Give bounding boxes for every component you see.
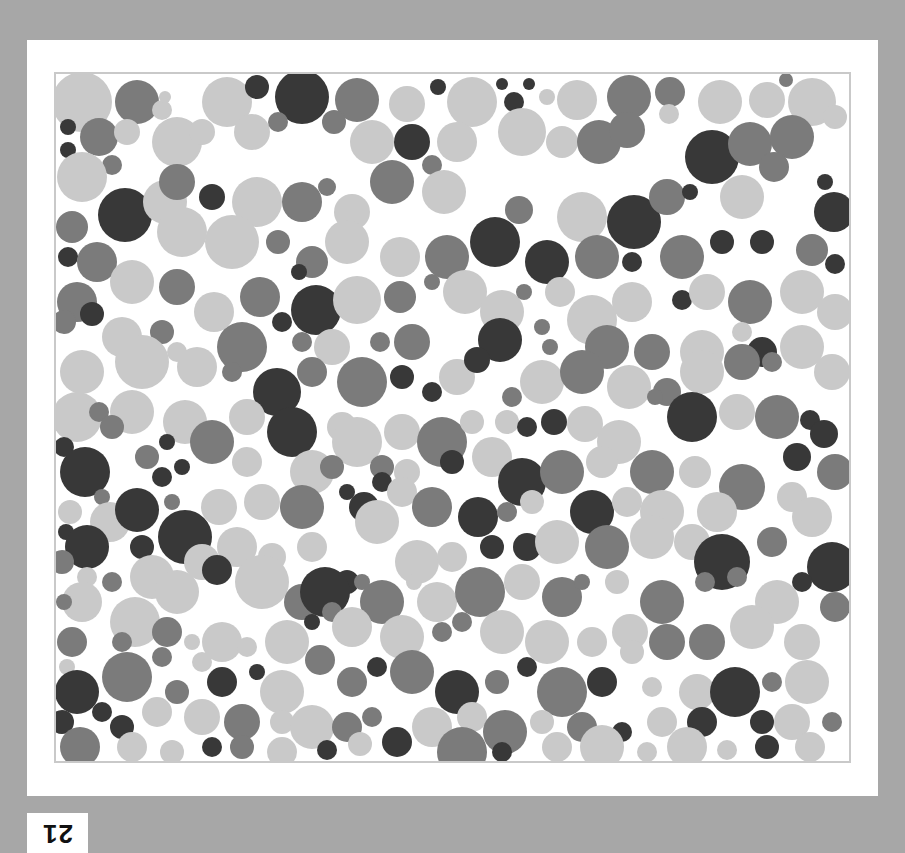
plate-dot-light	[749, 82, 785, 118]
plate-dot-dark	[58, 247, 78, 267]
plate-dot-light	[498, 108, 546, 156]
plate-dot-mid	[102, 652, 152, 702]
plate-dot-dark	[814, 192, 851, 232]
plate-dot-dark	[382, 727, 412, 757]
plate-dot-light	[525, 620, 569, 664]
plate-dot-mid	[796, 234, 828, 266]
plate-dot-dark	[291, 285, 341, 335]
plate-dot-mid	[152, 647, 172, 667]
plate-dot-dark	[807, 542, 851, 592]
plate-dot-dark	[80, 302, 104, 326]
plate-dot-mid	[534, 319, 550, 335]
plate-dot-light	[192, 652, 212, 672]
plate-dot-dark	[60, 119, 76, 135]
plate-dot-dark	[115, 488, 159, 532]
plate-dot-mid	[115, 80, 159, 124]
plate-dot-light	[680, 350, 724, 394]
plate-dot-light	[546, 126, 578, 158]
plate-dot-dark	[541, 409, 567, 435]
plate-dot-dark	[317, 740, 337, 760]
plate-dot-light	[698, 80, 742, 124]
plate-dot-dark	[810, 420, 838, 448]
plate-dot-light	[717, 740, 737, 760]
plate-dot-dark	[367, 657, 387, 677]
plate-dot-light	[637, 742, 657, 762]
plate-dot-light	[605, 570, 629, 594]
plate-dot-light	[557, 80, 597, 120]
plate-dot-light	[58, 500, 82, 524]
plate-dot-mid	[159, 269, 195, 305]
plate-dot-mid	[394, 324, 430, 360]
plate-dot-mid	[660, 235, 704, 279]
plate-dot-dark	[458, 497, 498, 537]
plate-dot-mid	[634, 334, 670, 370]
plate-dot-mid	[759, 152, 789, 182]
plate-number-text: 21	[42, 818, 73, 849]
plate-dot-dark	[817, 174, 833, 190]
plate-dot-light	[184, 634, 200, 650]
plate-dot-dark	[267, 407, 317, 457]
plate-dot-light	[792, 497, 832, 537]
plate-dot-light	[780, 270, 824, 314]
plate-dot-mid	[820, 592, 850, 622]
plate-dot-mid	[762, 672, 782, 692]
plate-dot-light	[814, 354, 850, 390]
plate-dot-dark	[517, 417, 537, 437]
plate-dot-light	[205, 215, 259, 269]
plate-dot-light	[142, 697, 172, 727]
plate-dot-light	[60, 350, 104, 394]
plate-dot-light	[642, 677, 662, 697]
plate-dot-mid	[540, 450, 584, 494]
plate-dot-light	[612, 282, 652, 322]
plate-dot-mid	[57, 627, 87, 657]
plate-dot-light	[823, 105, 847, 129]
plate-dot-light	[184, 699, 220, 735]
plate-dot-light	[520, 360, 564, 404]
plate-dot-light	[679, 674, 715, 710]
plate-dot-mid	[649, 179, 685, 215]
plate-dot-dark	[390, 365, 414, 389]
plate-dot-dark	[750, 710, 774, 734]
plate-dot-light	[557, 192, 607, 242]
plate-dot-light	[355, 500, 399, 544]
plate-dot-light	[333, 276, 381, 324]
plate-dot-light	[447, 77, 497, 127]
plate-dot-light	[348, 732, 372, 756]
plate-dot-light	[535, 520, 579, 564]
plate-dot-dark	[159, 434, 175, 450]
plate-dot-mid	[100, 415, 124, 439]
plate-dot-light	[332, 607, 372, 647]
plate-dot-dark	[464, 347, 490, 373]
plate-dot-mid	[370, 332, 390, 352]
plate-dot-mid	[222, 362, 242, 382]
plate-dot-light	[647, 707, 677, 737]
plate-dot-mid	[320, 455, 344, 479]
plate-dot-light	[387, 477, 417, 507]
plate-dot-dark	[496, 78, 508, 90]
plate-dot-light	[460, 410, 484, 434]
plate-dot-mid	[370, 160, 414, 204]
plate-dot-mid	[695, 572, 715, 592]
plate-dot-mid	[102, 572, 122, 592]
plate-dot-dark	[249, 664, 265, 680]
plate-dot-light	[437, 542, 467, 572]
plate-dot-dark	[272, 312, 292, 332]
plate-dot-light	[235, 555, 289, 609]
plate-dot-mid	[384, 281, 416, 313]
plate-dot-light	[155, 570, 199, 614]
plate-dot-light	[784, 624, 820, 660]
plate-dot-dark	[792, 572, 812, 592]
plate-dot-light	[719, 394, 755, 430]
plate-dot-light	[612, 487, 642, 517]
plate-dot-mid	[280, 485, 324, 529]
plate-dot-light	[504, 564, 540, 600]
plate-dot-light	[229, 399, 265, 435]
plate-dot-mid	[230, 735, 254, 759]
plate-dot-mid	[575, 235, 619, 279]
plate-dot-mid	[217, 322, 267, 372]
plate-dot-light	[437, 122, 477, 162]
plate-dot-light	[389, 86, 425, 122]
plate-dot-mid	[630, 450, 674, 494]
plate-dot-dark	[470, 217, 520, 267]
plate-dot-dark	[587, 667, 617, 697]
